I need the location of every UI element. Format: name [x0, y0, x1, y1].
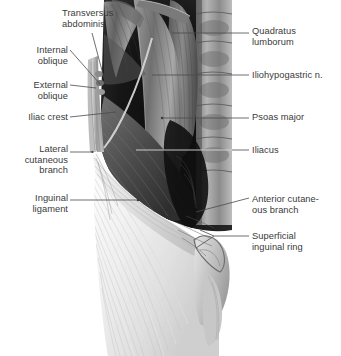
label-iliacus: Iliacus: [252, 145, 341, 156]
leader-dot-lateral-cutaneous: [91, 151, 93, 153]
label-iliac-crest: Iliac crest: [0, 112, 68, 123]
anatomical-figure: Transversus abdominis Internal oblique E…: [0, 0, 341, 356]
label-quadratus-lumborum: Quadratus lumborum: [252, 26, 341, 47]
label-inguinal-ligament: Inguinal ligament: [0, 193, 68, 214]
label-superficial-inguinal-ring: Superficial inguinal ring: [252, 231, 341, 252]
leader-dot-psoas-major: [161, 117, 163, 119]
label-internal-oblique: Internal oblique: [0, 45, 68, 66]
label-psoas-major: Psoas major: [252, 112, 341, 123]
label-anterior-cutaneous-branch: Anterior cutane- ous branch: [252, 194, 341, 215]
leader-dot-inguinal-ligament: [137, 199, 139, 201]
label-iliohypogastric-nerve: Iliohypogastric n.: [252, 70, 341, 81]
label-lateral-cutaneous-branch: Lateral cutaneous branch: [0, 144, 68, 176]
label-transversus-abdominis: Transversus abdominis: [62, 8, 150, 29]
label-external-oblique: External oblique: [0, 80, 68, 101]
